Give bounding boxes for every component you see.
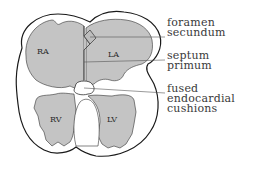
callout-septum-primum: septum primum bbox=[167, 51, 212, 71]
label-ra: RA bbox=[37, 47, 49, 56]
callout-fused-endocardial-cushions: fused endocardial cushions bbox=[167, 84, 235, 114]
right-atrium bbox=[26, 20, 84, 88]
label-lv: LV bbox=[107, 115, 117, 124]
interventricular-gap bbox=[74, 99, 99, 146]
label-rv: RV bbox=[50, 115, 62, 124]
label-la: LA bbox=[108, 50, 119, 59]
callout-foramen-secundum: foramen secundum bbox=[167, 18, 226, 38]
